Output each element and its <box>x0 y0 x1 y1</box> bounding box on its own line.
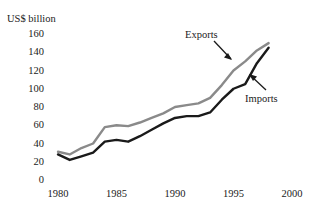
series-line-imports <box>58 48 269 160</box>
chart-container: US$ billion 160140120100806040200 198019… <box>0 0 312 220</box>
imports-label: Imports <box>245 93 278 104</box>
exports-label: Exports <box>185 29 218 40</box>
plot-area <box>0 0 312 220</box>
series-line-exports <box>58 43 269 154</box>
exports-arrowhead <box>224 53 232 60</box>
